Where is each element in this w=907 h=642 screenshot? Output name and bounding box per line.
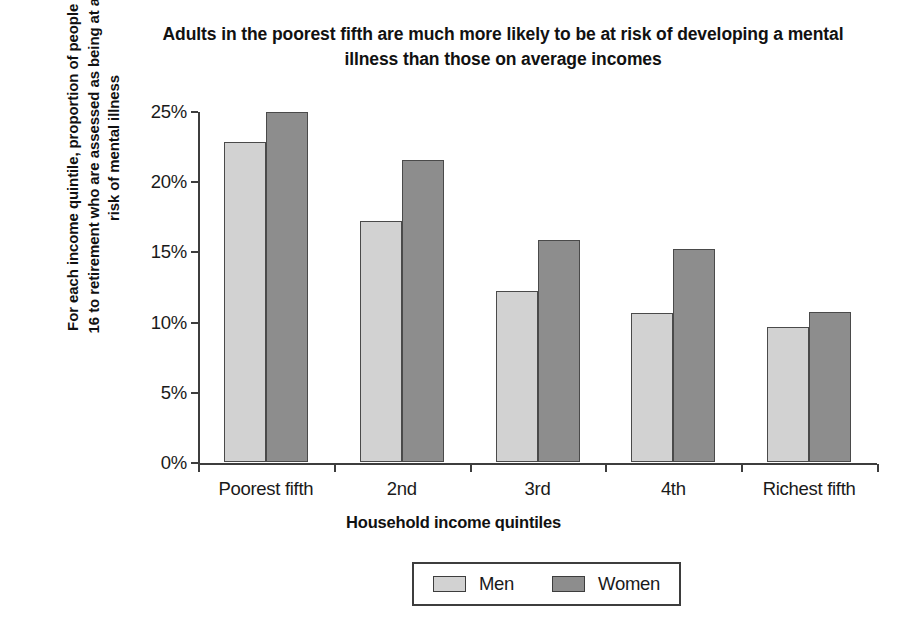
chart-legend: MenWomen bbox=[412, 562, 681, 606]
y-axis-line bbox=[198, 112, 200, 464]
bar-women-4th bbox=[673, 249, 715, 462]
x-axis-category-label: Poorest fifth bbox=[218, 478, 313, 500]
legend-label: Men bbox=[479, 573, 514, 595]
x-axis-tick bbox=[470, 464, 472, 472]
x-axis-tick bbox=[334, 464, 336, 472]
bar-women-richest-fifth bbox=[809, 312, 851, 462]
x-axis-tick bbox=[198, 464, 200, 472]
y-axis-tick bbox=[191, 392, 198, 394]
bar-men-poorest-fifth bbox=[224, 142, 266, 462]
x-axis-tick bbox=[877, 464, 879, 472]
chart-title: Adults in the poorest fifth are much mor… bbox=[153, 22, 853, 73]
x-axis-tick bbox=[741, 464, 743, 472]
y-axis-title-text: For each income quintile, proportion of … bbox=[63, 0, 124, 337]
x-axis-category-label: Richest fifth bbox=[763, 478, 856, 500]
bar-women-poorest-fifth bbox=[266, 112, 308, 462]
x-axis-category-label: 4th bbox=[661, 478, 686, 500]
y-axis-tick bbox=[191, 322, 198, 324]
bar-men-richest-fifth bbox=[767, 327, 809, 462]
legend-swatch-icon bbox=[433, 576, 466, 592]
y-axis-tick bbox=[191, 111, 198, 113]
x-axis-line bbox=[198, 463, 877, 465]
bar-men-2nd bbox=[360, 221, 402, 462]
y-axis-tick-label: 15% bbox=[151, 241, 187, 263]
legend-swatch-icon bbox=[552, 576, 585, 592]
legend-entry-women[interactable]: Women bbox=[552, 573, 660, 595]
y-axis-tick-label: 5% bbox=[161, 382, 187, 404]
x-axis-category-label: 2nd bbox=[387, 478, 417, 500]
bar-men-3rd bbox=[496, 291, 538, 462]
y-axis-title: For each income quintile, proportion of … bbox=[36, 0, 152, 338]
legend-label: Women bbox=[598, 573, 660, 595]
plot-area: 0%5%10%15%20%25% Poorest fifth2nd3rd4thR… bbox=[198, 112, 877, 463]
y-axis-tick-label: 0% bbox=[161, 452, 187, 474]
y-axis-tick bbox=[191, 462, 198, 464]
y-axis-tick bbox=[191, 181, 198, 183]
y-axis-tick-label: 25% bbox=[151, 101, 187, 123]
y-axis-tick-label: 20% bbox=[151, 171, 187, 193]
x-axis-category-label: 3rd bbox=[525, 478, 551, 500]
bar-women-3rd bbox=[538, 240, 580, 462]
legend-entry-men[interactable]: Men bbox=[433, 573, 514, 595]
y-axis-tick bbox=[191, 251, 198, 253]
y-axis-tick-label: 10% bbox=[151, 312, 187, 334]
x-axis-title: Household income quintiles bbox=[0, 513, 907, 532]
x-axis-tick bbox=[605, 464, 607, 472]
bar-women-2nd bbox=[402, 160, 444, 462]
bar-men-4th bbox=[631, 313, 673, 462]
